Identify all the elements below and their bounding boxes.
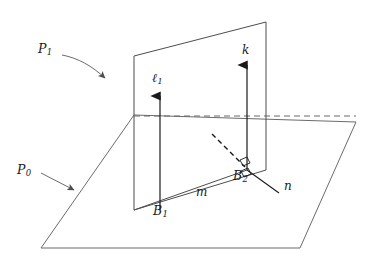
label-plane-1-subscript: 1 — [47, 47, 52, 57]
label-point-b1-base: B — [153, 203, 162, 218]
label-point-b2-base: B — [233, 168, 242, 183]
label-plane-1-base: P — [38, 41, 46, 56]
geometry-figure: P0 P1 ℓ1 k m n B1 B2 — [0, 0, 377, 265]
label-point-b2-subscript: 2 — [243, 174, 248, 184]
dashed-ray-to-b2 — [212, 134, 245, 167]
label-plane-0: P0 — [17, 164, 31, 178]
pointer-arrow-plane-0 — [41, 173, 74, 190]
label-line-k-base: k — [242, 43, 249, 57]
pointer-arrow-plane-1 — [62, 55, 105, 78]
label-point-b1: B1 — [153, 205, 168, 219]
label-line-n: n — [284, 180, 292, 192]
label-line-l1: ℓ1 — [152, 72, 163, 85]
plane-0-outline — [41, 115, 356, 248]
figure-canvas — [0, 0, 377, 265]
label-point-b1-subscript: 1 — [163, 209, 168, 219]
label-plane-0-base: P — [17, 162, 25, 177]
label-plane-0-subscript: 0 — [26, 168, 31, 178]
line-m — [134, 170, 247, 210]
line-n — [247, 170, 279, 193]
label-point-b2: B2 — [233, 170, 248, 184]
label-line-k: k — [242, 44, 249, 56]
label-line-l1-subscript: 1 — [157, 76, 162, 86]
label-line-n-base: n — [284, 179, 292, 193]
label-line-m: m — [196, 186, 207, 198]
label-line-m-base: m — [196, 185, 207, 199]
label-plane-1: P1 — [38, 43, 52, 57]
right-angle-marker-upper — [240, 157, 250, 166]
